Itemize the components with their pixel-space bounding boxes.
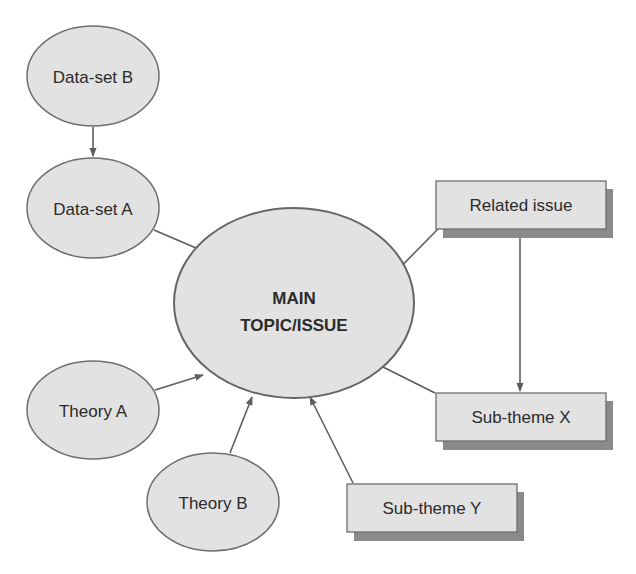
node-label: Related issue [469, 196, 572, 215]
node-dataset-a: Data-set A [27, 158, 159, 258]
node-main-topic: MAIN TOPIC/ISSUE [174, 208, 414, 398]
edge-theorya-to-main [155, 375, 203, 390]
node-theory-a: Theory A [27, 361, 159, 459]
node-subtheme-x: Sub-theme X [436, 393, 613, 450]
node-label: Theory A [59, 402, 128, 421]
node-subtheme-y: Sub-theme Y [347, 484, 524, 541]
node-related-issue: Related issue [436, 181, 613, 238]
concept-map: Data-set B Data-set A MAIN TOPIC/ISSUE T… [0, 0, 636, 574]
node-label: Data-set B [53, 68, 133, 87]
node-label: Sub-theme X [471, 408, 570, 427]
node-label: Sub-theme Y [383, 499, 482, 518]
node-theory-b: Theory B [147, 453, 279, 551]
edge-subthemey-to-main [310, 397, 353, 483]
node-label: Theory B [179, 494, 248, 513]
node-label-line2: TOPIC/ISSUE [240, 316, 347, 335]
node-label: Data-set A [53, 200, 133, 219]
node-label-line1: MAIN [272, 289, 315, 308]
edge-theoryb-to-main [230, 397, 252, 453]
node-dataset-b: Data-set B [27, 26, 159, 126]
